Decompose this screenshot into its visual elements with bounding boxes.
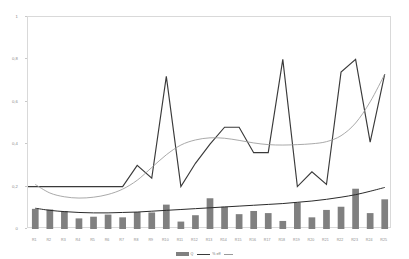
- x-axis-tick-label: R8: [134, 238, 139, 242]
- y-axis-tick-mark: [25, 58, 27, 59]
- x-axis-tick-label: R6: [105, 238, 110, 242]
- x-axis-tick-label: R17: [264, 238, 271, 242]
- x-axis-tick-label: R5: [90, 238, 95, 242]
- y-axis-tick-label: 0,2: [0, 183, 18, 188]
- y-axis-tick-label: 1: [0, 14, 18, 19]
- x-axis-tick-label: R1: [32, 238, 37, 242]
- x-axis-tick-label: R10: [162, 238, 169, 242]
- x-axis-tick-label: R2: [46, 238, 51, 242]
- chart-legend: Q % eff: [0, 252, 409, 256]
- chart-container: 00,20,40,60,81 R1R2R3R4R5R6R7R8R9R10R11R…: [0, 0, 409, 259]
- y-axis-tick-mark: [25, 186, 27, 187]
- legend-line-label: % eff: [212, 252, 220, 256]
- y-axis-tick-mark: [25, 101, 27, 102]
- y-axis-tick-label: 0,6: [0, 98, 18, 103]
- legend-trend-swatch: [224, 254, 233, 255]
- y-axis-tick-label: 0,8: [0, 56, 18, 61]
- legend-item-bar: Q: [176, 252, 194, 256]
- x-axis-tick-label: R9: [148, 238, 153, 242]
- legend-item-trend: [224, 254, 233, 255]
- legend-bar-label: Q: [191, 252, 194, 256]
- y-axis-tick-label: 0: [0, 226, 18, 231]
- x-axis-tick-label: R3: [61, 238, 66, 242]
- x-axis-tick-label: R18: [278, 238, 285, 242]
- x-axis-tick-label: R11: [177, 238, 183, 242]
- legend-bar-swatch: [176, 252, 189, 255]
- x-axis-tick-label: R16: [249, 238, 256, 242]
- bar-series-group: [32, 189, 388, 229]
- x-axis-tick-label: R13: [206, 238, 213, 242]
- x-axis-tick-label: R14: [220, 238, 227, 242]
- x-axis-tick-label: R15: [235, 238, 242, 242]
- legend-line-swatch: [197, 254, 210, 255]
- y-axis-tick-label: 0,4: [0, 141, 18, 146]
- x-axis-tick-label: R12: [191, 238, 198, 242]
- x-axis-tick-label: R19: [293, 238, 300, 242]
- x-axis-tick-label: R21: [322, 238, 329, 242]
- x-axis-tick-label: R24: [366, 238, 373, 242]
- plot-area: [27, 16, 391, 228]
- legend-item-line: % eff: [197, 252, 220, 256]
- y-axis-tick-mark: [25, 143, 27, 144]
- y-axis-tick-mark: [25, 228, 27, 229]
- x-axis-tick-label: R25: [380, 238, 387, 242]
- x-axis-tick-label: R7: [119, 238, 124, 242]
- efficiency-line: [28, 59, 385, 186]
- x-axis-tick-label: R20: [308, 238, 315, 242]
- y-axis-tick-mark: [25, 16, 27, 17]
- x-axis-tick-label: R4: [76, 238, 81, 242]
- x-axis-tick-label: R22: [337, 238, 344, 242]
- x-axis-tick-label: R23: [351, 238, 358, 242]
- chart-svg: [28, 17, 392, 229]
